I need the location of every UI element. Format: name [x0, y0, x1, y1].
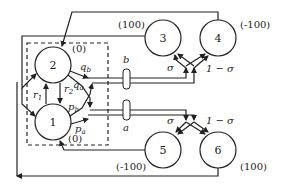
- sigma-bottom-label: σ: [167, 115, 175, 126]
- action-b-box: [123, 69, 130, 89]
- node-4-value: (-100): [240, 19, 270, 30]
- pb-label: pb: [68, 101, 79, 114]
- state-transition-diagram: 2 1 3 4 5 6 (0) (100) (-100) (0) (-100) …: [0, 0, 284, 187]
- one-minus-sigma-bottom-label: 1 − σ: [206, 115, 235, 126]
- action-a-line-2: [88, 115, 194, 120]
- r1-label: r1: [33, 89, 42, 102]
- edge-onesigma-to-4: [186, 54, 205, 66]
- node-5-label: 5: [160, 144, 167, 157]
- node-6: 6: [200, 132, 236, 168]
- node-3-value: (100): [118, 19, 145, 30]
- node-4: 4: [200, 20, 236, 56]
- edge-qb: [70, 71, 88, 78]
- action-a-box: [123, 100, 130, 120]
- node-6-label: 6: [215, 144, 222, 157]
- action-a-label: a: [123, 122, 129, 133]
- qb-label: qb: [80, 61, 91, 74]
- node-4-label: 4: [215, 32, 222, 45]
- node-1: 1: [35, 104, 71, 140]
- node-6-value: (100): [240, 161, 267, 172]
- sigma-top-label: σ: [167, 62, 175, 73]
- node-2: 2: [35, 47, 71, 83]
- edge-sigma-to-5: [176, 122, 186, 132]
- node-5-value: (-100): [116, 161, 146, 172]
- node-1-value: (0): [68, 133, 82, 144]
- action-b-line-2: [92, 68, 194, 83]
- node-3: 3: [145, 20, 181, 56]
- diagram-canvas: 2 1 3 4 5 6 (0) (100) (-100) (0) (-100) …: [0, 0, 284, 187]
- node-3-label: 3: [160, 32, 167, 45]
- node-1-label: 1: [50, 116, 57, 129]
- node-2-label: 2: [50, 59, 57, 72]
- one-minus-sigma-top-label: 1 − σ: [206, 63, 235, 74]
- edge-sigma-to-3: [175, 55, 186, 68]
- action-b-label: b: [123, 54, 129, 65]
- node-2-value: (0): [72, 43, 86, 54]
- node-5: 5: [145, 132, 181, 168]
- qa-label: qa: [73, 79, 84, 92]
